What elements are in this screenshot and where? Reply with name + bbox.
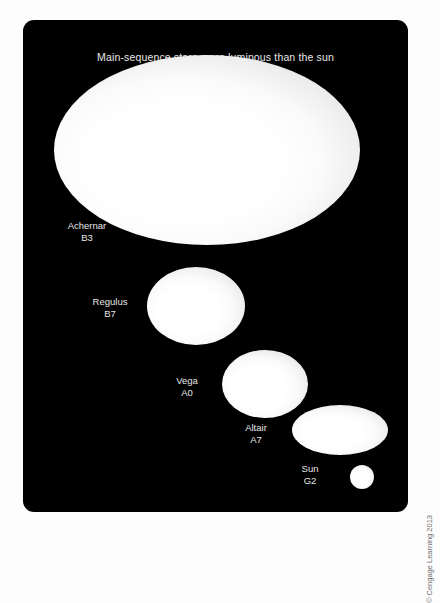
sky-panel: Main-sequence stars more luminous than t…: [23, 20, 408, 512]
star-name-achernar: Achernar: [68, 220, 107, 231]
copyright-credit: © Cengage Learning 2013: [425, 515, 434, 603]
star-type-achernar: B3: [45, 232, 129, 244]
star-achernar: [54, 55, 360, 245]
star-altair: [292, 405, 388, 455]
star-vega: [222, 350, 308, 418]
star-label-achernar: Achernar B3: [45, 220, 129, 243]
star-label-sun: Sun G2: [280, 463, 340, 486]
star-type-altair: A7: [224, 434, 288, 446]
star-type-vega: A0: [155, 387, 219, 399]
star-type-sun: G2: [280, 475, 340, 487]
star-regulus: [147, 267, 245, 345]
star-type-regulus: B7: [75, 308, 145, 320]
star-label-regulus: Regulus B7: [75, 296, 145, 319]
star-name-vega: Vega: [176, 375, 198, 386]
star-label-altair: Altair A7: [224, 422, 288, 445]
star-label-vega: Vega A0: [155, 375, 219, 398]
star-sun: [350, 465, 374, 489]
star-name-altair: Altair: [245, 422, 267, 433]
star-name-sun: Sun: [302, 463, 319, 474]
star-name-regulus: Regulus: [93, 296, 128, 307]
